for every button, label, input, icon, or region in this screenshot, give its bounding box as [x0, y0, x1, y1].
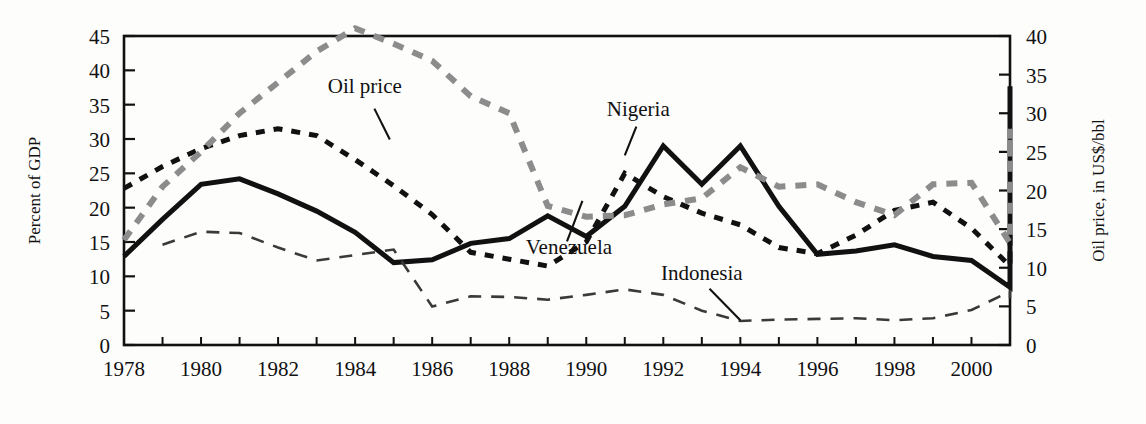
- y2-axis-title: Oil price, in US$/bbl: [1089, 119, 1108, 262]
- x-tick-label: 1978: [103, 357, 145, 381]
- y-tick-label: 35: [89, 94, 110, 118]
- x-tick-label: 1998: [873, 357, 915, 381]
- indonesia-series-label: Indonesia: [661, 261, 743, 285]
- chart-canvas: 051015202530354045 0510152025303540 1978…: [0, 0, 1146, 424]
- y2-tick-label: 0: [1026, 334, 1037, 358]
- y-axis-title: Percent of GDP: [25, 137, 44, 245]
- y2-tick-label: 20: [1026, 180, 1047, 204]
- x-tick-label: 1980: [180, 357, 222, 381]
- y2-tick-label: 15: [1026, 218, 1047, 242]
- y2-tick-label: 35: [1026, 64, 1047, 88]
- oil-price-series-label: Oil price: [328, 74, 402, 98]
- x-tick-label: 1990: [565, 357, 607, 381]
- y-tick-label: 20: [89, 197, 110, 221]
- x-tick-label: 1982: [257, 357, 299, 381]
- x-tick-label: 2000: [950, 357, 992, 381]
- x-tick-label: 1986: [411, 357, 453, 381]
- y-tick-label: 45: [89, 25, 110, 49]
- oil-exporters-chart: 051015202530354045 0510152025303540 1978…: [0, 0, 1146, 424]
- y-tick-label: 0: [100, 334, 111, 358]
- venezuela-series-label: Venezuela: [526, 235, 613, 259]
- y-tick-label: 30: [89, 128, 110, 152]
- x-tick-label: 1994: [719, 357, 762, 381]
- y2-tick-label: 30: [1026, 102, 1047, 126]
- x-tick-label: 1984: [334, 357, 377, 381]
- nigeria-series-label: Nigeria: [607, 97, 671, 121]
- x-tick-label: 1988: [488, 357, 530, 381]
- y2-tick-label: 25: [1026, 141, 1047, 165]
- y2-tick-label: 5: [1026, 295, 1037, 319]
- y-tick-label: 5: [100, 300, 111, 324]
- y2-tick-label: 40: [1026, 25, 1047, 49]
- y-tick-label: 25: [89, 162, 110, 186]
- y2-tick-label: 10: [1026, 257, 1047, 281]
- x-tick-label: 1992: [642, 357, 684, 381]
- x-tick-label: 1996: [796, 357, 838, 381]
- y-tick-label: 10: [89, 265, 110, 289]
- y-tick-label: 40: [89, 59, 110, 83]
- y-tick-label: 15: [89, 231, 110, 255]
